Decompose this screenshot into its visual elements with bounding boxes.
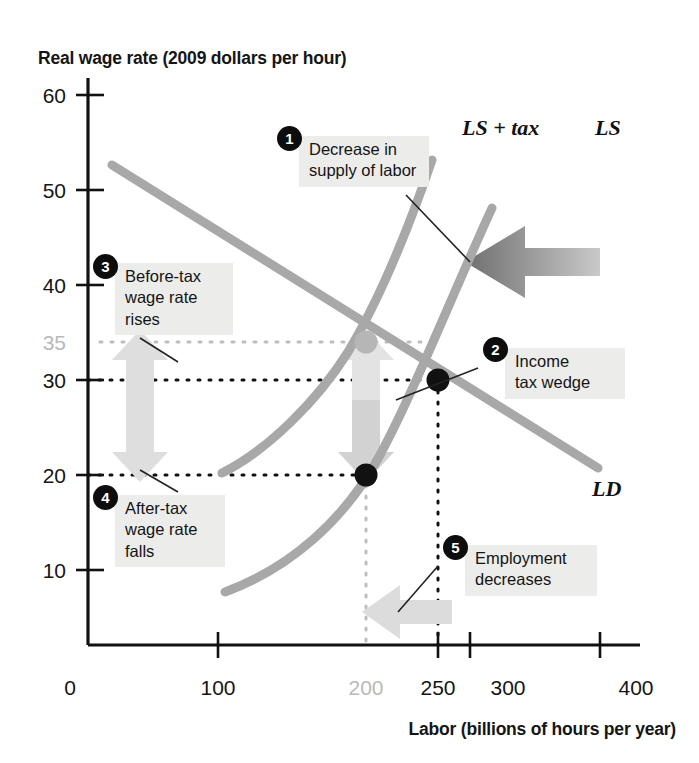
leader-line-1	[406, 195, 470, 262]
x-tick-label-400: 400	[618, 676, 653, 699]
callout-box-1: Decrease in supply of labor	[299, 136, 429, 187]
y-tick-label-35: 35	[43, 331, 66, 354]
y-tick-label-20: 20	[43, 464, 66, 487]
economics-figure: LS + tax LS LD 60 50 40 35 30 20 10 0 10…	[0, 0, 699, 763]
y-tick-label-50: 50	[43, 179, 66, 202]
labor-supply-plus-tax-curve	[222, 160, 432, 473]
callout-box-5: Employment decreases	[465, 545, 597, 596]
callout-box-3: Before-tax wage rate rises	[115, 263, 233, 335]
x-tick-label-100: 100	[200, 676, 235, 699]
before-tax-up-arrow	[112, 330, 168, 380]
ls-label: LS	[594, 115, 621, 140]
ls-plus-tax-label: LS + tax	[461, 115, 539, 140]
callout-badge-3: 3	[93, 254, 118, 279]
after-tax-down-arrow	[112, 380, 168, 482]
x-tick-label-0: 0	[64, 676, 76, 699]
employment-left-arrow-shape	[362, 585, 452, 639]
callout-badge-1: 1	[277, 126, 302, 151]
callout-box-4: After-tax wage rate falls	[115, 495, 225, 567]
x-tick-label-200: 200	[348, 676, 383, 699]
ld-label: LD	[591, 476, 621, 501]
x-tick-label-250: 250	[420, 676, 455, 699]
left-shift-arrow-shape	[465, 226, 600, 298]
y-tick-label-10: 10	[43, 559, 66, 582]
y-tick-label-60: 60	[43, 84, 66, 107]
callout-badge-5: 5	[443, 535, 468, 560]
y-tick-label-40: 40	[43, 274, 66, 297]
y-axis-title: Real wage rate (2009 dollars per hour)	[38, 48, 347, 68]
leader-line-4	[140, 470, 178, 492]
y-tick-label-30: 30	[43, 369, 66, 392]
supply-shift-arrow	[465, 226, 600, 298]
point-after-tax-equilibrium	[355, 464, 378, 487]
callout-badge-2: 2	[483, 337, 508, 362]
callout-badge-4: 4	[93, 485, 118, 510]
x-tick-label-300: 300	[490, 676, 525, 699]
callout-box-2: Income tax wedge	[505, 348, 625, 399]
x-axis-title: Labor (billions of hours per year)	[409, 719, 676, 739]
employment-decrease-arrow	[362, 585, 452, 639]
point-before-tax-equilibrium	[355, 331, 378, 354]
